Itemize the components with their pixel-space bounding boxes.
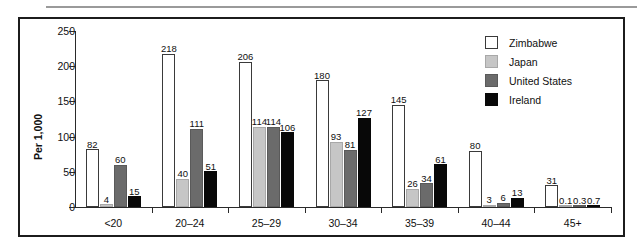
bar[interactable]: 81	[344, 150, 357, 207]
bar-group: 145263461	[392, 31, 447, 207]
bar-group-bars: 8246015	[86, 31, 141, 207]
bar[interactable]: 145	[392, 105, 405, 207]
bar-value-label: 218	[161, 44, 177, 54]
x-tick-mark	[152, 207, 153, 213]
figure-frame: Per 1,000 050100150200250 8246015<202184…	[18, 17, 625, 237]
bar-group-bars: 206114114106	[239, 31, 294, 207]
bar[interactable]: 0.1	[559, 205, 572, 207]
legend-swatch	[485, 93, 498, 106]
bar-value-label: 31	[546, 176, 557, 186]
bar-value-label: 34	[421, 174, 432, 184]
legend-item[interactable]: United States	[485, 71, 572, 90]
bar-value-label: 206	[237, 52, 253, 62]
x-category-label: 25–29	[228, 217, 305, 229]
bar[interactable]: 4	[100, 204, 113, 207]
legend-swatch	[485, 36, 498, 49]
bar-group-bars: 1809381127	[316, 31, 371, 207]
x-tick-mark	[305, 207, 306, 213]
bar-value-label: 0.1	[559, 196, 572, 206]
bar-value-label: 82	[87, 140, 98, 150]
x-category-label: 30–34	[305, 217, 382, 229]
bar[interactable]: 31	[545, 185, 558, 207]
bar[interactable]: 0.3	[573, 205, 586, 207]
x-tick-mark	[381, 207, 382, 213]
bar[interactable]: 61	[434, 164, 447, 207]
bar[interactable]: 15	[128, 196, 141, 207]
bar-value-label: 61	[435, 155, 446, 165]
x-category-label: 35–39	[381, 217, 458, 229]
bar-value-label: 180	[314, 71, 330, 81]
bar-value-label: 60	[115, 155, 126, 165]
bar[interactable]: 114	[253, 127, 266, 207]
y-tick: 50	[20, 172, 75, 173]
bar[interactable]: 40	[176, 179, 189, 207]
bar-value-label: 4	[104, 195, 109, 205]
bar-group: 1809381127	[316, 31, 371, 207]
legend-item[interactable]: Ireland	[485, 90, 572, 109]
bar[interactable]: 13	[511, 198, 524, 207]
bar[interactable]: 114	[267, 127, 280, 207]
bar-group-bars: 145263461	[392, 31, 447, 207]
x-category-label: 40–44	[458, 217, 535, 229]
x-tick-mark	[534, 207, 535, 213]
y-tick: 250	[20, 31, 75, 32]
bar[interactable]: 111	[190, 129, 203, 207]
y-tick: 150	[20, 101, 75, 102]
legend-item[interactable]: Zimbabwe	[485, 33, 572, 52]
bar[interactable]: 180	[316, 80, 329, 207]
legend: ZimbabweJapanUnited StatesIreland	[485, 33, 572, 109]
bar-value-label: 80	[470, 141, 481, 151]
bar[interactable]: 26	[406, 189, 419, 207]
bar[interactable]: 60	[114, 165, 127, 207]
bar-value-label: 3	[486, 195, 491, 205]
legend-label: Zimbabwe	[509, 37, 557, 49]
bar-value-label: 26	[407, 179, 418, 189]
plot-area: Per 1,000 050100150200250 8246015<202184…	[20, 19, 623, 235]
bar-value-label: 81	[345, 140, 356, 150]
y-tick: 0	[20, 207, 75, 208]
x-tick-mark	[458, 207, 459, 213]
x-category-label: 20–24	[152, 217, 229, 229]
bar-value-label: 114	[252, 117, 267, 127]
x-tick-mark	[611, 207, 612, 213]
bar-value-label: 51	[206, 162, 217, 172]
bar[interactable]: 34	[420, 183, 433, 207]
bar-value-label: 6	[500, 193, 505, 203]
bar-value-label: 145	[391, 95, 407, 105]
x-tick-mark	[228, 207, 229, 213]
x-category-label: 45+	[534, 217, 611, 229]
bar[interactable]: 218	[162, 54, 175, 207]
bar-value-label: 106	[279, 123, 295, 133]
y-axis-line	[75, 31, 76, 207]
bar-value-label: 127	[356, 108, 372, 118]
y-tick: 100	[20, 137, 75, 138]
bar[interactable]: 80	[469, 151, 482, 207]
bar[interactable]: 51	[204, 171, 217, 207]
bar-value-label: 13	[512, 188, 523, 198]
x-category-label: <20	[75, 217, 152, 229]
bar-value-label: 111	[190, 119, 204, 129]
bar-value-label: 40	[178, 169, 189, 179]
legend-label: Ireland	[509, 94, 541, 106]
top-rule	[46, 6, 637, 8]
bar[interactable]: 3	[483, 205, 496, 207]
bar[interactable]: 106	[281, 132, 294, 207]
bar[interactable]: 127	[358, 118, 371, 207]
bar[interactable]: 0.7	[587, 205, 600, 207]
bar[interactable]: 82	[86, 149, 99, 207]
bar[interactable]: 206	[239, 62, 252, 207]
legend-item[interactable]: Japan	[485, 52, 572, 71]
bar-value-label: 0.7	[587, 196, 600, 206]
legend-label: Japan	[509, 56, 538, 68]
bar-value-label: 15	[129, 187, 140, 197]
bar[interactable]: 6	[497, 203, 510, 207]
bar-group-bars: 2184011151	[162, 31, 217, 207]
bar[interactable]: 93	[330, 142, 343, 207]
bar-group: 2184011151	[162, 31, 217, 207]
legend-label: United States	[509, 75, 572, 87]
bar-group: 8246015	[86, 31, 141, 207]
legend-swatch	[485, 55, 498, 68]
x-axis-line	[75, 207, 611, 208]
y-tick: 200	[20, 66, 75, 67]
legend-swatch	[485, 74, 498, 87]
